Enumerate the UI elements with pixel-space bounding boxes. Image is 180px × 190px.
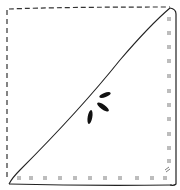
bottom-edge [9,184,172,185]
seed-mark [96,101,110,113]
seed-mark [87,110,94,125]
dashed-top-edge [9,7,170,9]
napkin-sketch [0,0,180,190]
right-stitches [165,18,171,172]
diagonal-fold-line [9,8,170,184]
right-edge [170,8,176,185]
seed-mark [99,91,112,99]
bottom-stitches [18,176,166,180]
